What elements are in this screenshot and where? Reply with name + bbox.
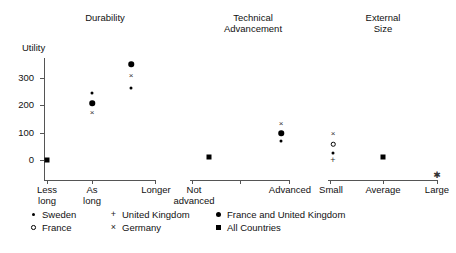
point-longer-germany: × — [129, 72, 134, 80]
x-tick-label-average: Average — [360, 185, 406, 196]
y-tick-label-0: 0 — [8, 154, 34, 165]
legend-label-germany: Germany — [122, 222, 161, 233]
point-less-long-all-countries — [45, 158, 50, 163]
panel-title-technical: Technical Advancement — [198, 12, 308, 34]
point-longer-france-and-uk — [128, 61, 134, 67]
cross-icon: × — [108, 222, 119, 233]
filled-square-icon — [213, 222, 224, 233]
point-not-advanced-all-countries — [207, 155, 212, 160]
point-as-long-sweden — [91, 92, 94, 95]
point-advanced-france-and-uk — [278, 130, 284, 136]
point-average-all-countries — [381, 155, 386, 160]
point-as-long-germany: × — [90, 109, 95, 117]
x-tick-label-advanced: Advanced — [262, 185, 318, 196]
x-tick-label-not-advanced: Not advanced — [170, 185, 218, 206]
y-tick-label-100: 100 — [8, 127, 34, 138]
y-tick-300 — [40, 78, 44, 79]
large-dot-icon — [213, 209, 224, 220]
legend-column-1: Sweden France — [28, 208, 76, 234]
y-tick-200 — [40, 105, 44, 106]
legend-column-3: France and United Kingdom All Countries — [213, 208, 345, 234]
point-small-united-kingdom: + — [330, 156, 335, 165]
legend-label-united-kingdom: United Kingdom — [122, 209, 190, 220]
y-tick-label-300: 300 — [8, 72, 34, 83]
panel-title-durability: Durability — [60, 12, 150, 23]
point-advanced-sweden — [280, 140, 283, 143]
legend-item-united-kingdom: + United Kingdom — [108, 208, 190, 221]
open-circle-icon — [28, 222, 39, 233]
x-tick-label-less-long: Less long — [27, 185, 67, 206]
small-dot-icon — [28, 209, 39, 220]
x-axis-line-durability — [44, 180, 156, 181]
x-tick-label-as-long: As long — [72, 185, 112, 206]
legend-column-2: + United Kingdom × Germany — [108, 208, 190, 234]
x-tick-label-small: Small — [312, 185, 350, 196]
legend-label-all-countries: All Countries — [227, 222, 281, 233]
legend-label-france-and-uk: France and United Kingdom — [227, 209, 345, 220]
panel-title-external: External Size — [338, 12, 428, 34]
point-as-long-france-and-uk — [89, 100, 95, 106]
legend-item-germany: × Germany — [108, 221, 190, 234]
point-longer-sweden — [130, 87, 133, 90]
legend-label-sweden: Sweden — [42, 209, 76, 220]
y-tick-label-200: 200 — [8, 99, 34, 110]
legend-item-all-countries: All Countries — [213, 221, 345, 234]
x-tick-mid-technical — [240, 180, 241, 184]
x-tick-label-large: Large — [418, 185, 456, 196]
point-large-reference: ✱ — [433, 171, 441, 180]
legend-item-sweden: Sweden — [28, 208, 76, 221]
chart-canvas: Durability Technical Advancement Externa… — [0, 0, 456, 253]
legend-item-france-and-uk: France and United Kingdom — [213, 208, 345, 221]
legend-label-france: France — [42, 222, 72, 233]
y-tick-0 — [40, 160, 44, 161]
y-axis-label: Utility — [22, 42, 45, 53]
y-tick-100 — [40, 133, 44, 134]
legend-item-france: France — [28, 221, 76, 234]
point-advanced-germany: × — [279, 120, 284, 128]
point-small-france — [331, 142, 336, 147]
point-small-germany: × — [331, 130, 336, 138]
plus-icon: + — [108, 209, 119, 220]
